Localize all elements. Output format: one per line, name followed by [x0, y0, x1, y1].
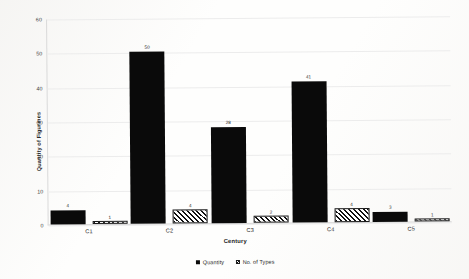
- x-axis-tick-label: C1: [85, 228, 93, 234]
- y-axis-tick-label: 0: [41, 223, 44, 229]
- bar-group: 282C3: [208, 18, 290, 224]
- bar-quantity[interactable]: 4: [50, 210, 85, 224]
- bar-group: 414C4: [289, 17, 371, 223]
- bar-wrapper: 50: [129, 19, 166, 224]
- bar-quantity[interactable]: 3: [373, 211, 408, 222]
- bar-value-label: 2: [270, 210, 273, 215]
- bar-quantity[interactable]: 50: [130, 52, 166, 224]
- y-axis-tick-label: 50: [36, 51, 42, 57]
- bar-value-label: 41: [306, 75, 311, 80]
- x-axis-tick-label: C3: [246, 227, 254, 233]
- bar-value-label: 4: [66, 204, 69, 209]
- plot-area: 0102030405060 41C1504C2282C3414C431C5: [46, 16, 452, 225]
- bar-groups: 41C1504C2282C3414C431C5: [47, 16, 452, 224]
- bar-wrapper: 28: [210, 18, 247, 223]
- bar-types[interactable]: 1: [92, 220, 127, 224]
- bar-value-label: 1: [431, 212, 434, 217]
- legend-label: Quantity: [203, 259, 224, 265]
- y-axis-tick-label: 60: [36, 17, 42, 23]
- bar-wrapper: 4: [171, 18, 208, 223]
- chart-page: Quantity of Figurines 0102030405060 41C1…: [0, 0, 469, 279]
- x-axis-title: Century: [1, 236, 469, 246]
- bar-group: 504C2: [128, 18, 210, 224]
- bar-value-label: 50: [144, 45, 149, 50]
- bar-value-label: 4: [350, 202, 353, 207]
- y-axis-tick-label: 10: [37, 188, 43, 194]
- bar-wrapper: 4: [333, 17, 370, 222]
- bar-types[interactable]: 1: [415, 218, 450, 222]
- bar-wrapper: 1: [413, 16, 450, 221]
- bar-types[interactable]: 2: [254, 216, 289, 223]
- bar-group: 41C1: [47, 19, 129, 225]
- x-axis-tick-label: C4: [327, 226, 335, 232]
- bar-quantity[interactable]: 41: [291, 82, 327, 223]
- y-axis-tick-label: 20: [37, 154, 43, 160]
- bar-types[interactable]: 4: [173, 209, 208, 223]
- legend-item[interactable]: Quantity: [196, 259, 224, 265]
- bar-wrapper: 1: [91, 19, 128, 224]
- y-axis-tick-label: 30: [37, 120, 43, 126]
- chart-figure: Quantity of Figurines 0102030405060 41C1…: [0, 0, 469, 279]
- legend-item[interactable]: No. of Types: [236, 259, 275, 265]
- bar-group: 31C5: [369, 16, 451, 222]
- bar-value-label: 28: [226, 120, 231, 125]
- bar-value-label: 4: [189, 204, 192, 209]
- bar-wrapper: 4: [49, 19, 86, 224]
- legend-swatch-quantity: [196, 260, 200, 264]
- x-axis-tick-label: C5: [408, 226, 416, 232]
- bar-types[interactable]: 4: [334, 208, 369, 222]
- bar-wrapper: 41: [291, 17, 328, 222]
- x-axis-tick-label: C2: [166, 227, 174, 233]
- legend-swatch-types: [236, 260, 240, 264]
- bar-wrapper: 2: [252, 18, 289, 223]
- legend-label: No. of Types: [243, 259, 275, 265]
- bar-wrapper: 3: [371, 17, 408, 222]
- bar-value-label: 1: [109, 215, 112, 220]
- legend: QuantityNo. of Types: [1, 257, 469, 267]
- bar-value-label: 3: [389, 204, 392, 209]
- bar-quantity[interactable]: 28: [211, 127, 247, 223]
- y-axis-tick-label: 40: [36, 85, 42, 91]
